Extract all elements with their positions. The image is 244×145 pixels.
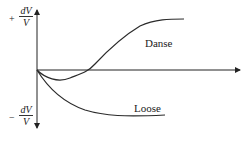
dense-label: Danse: [145, 37, 173, 49]
positive-sign: +: [9, 13, 15, 24]
negative-sign: −: [9, 112, 15, 123]
loose-label: Loose: [134, 102, 161, 114]
numerator: dV: [18, 5, 34, 16]
negative-dv-v-label: dV V: [18, 104, 34, 127]
volume-change-diagram: Danse Loose: [0, 0, 244, 145]
numerator: dV: [18, 104, 34, 115]
denominator: V: [18, 116, 34, 127]
positive-dv-v-label: dV V: [18, 5, 34, 28]
denominator: V: [18, 17, 34, 28]
curve-dense: [37, 19, 184, 80]
